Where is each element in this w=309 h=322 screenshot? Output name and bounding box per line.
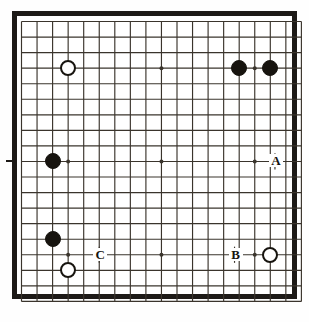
board-label-a: A xyxy=(269,154,283,167)
star-point xyxy=(253,159,257,163)
star-point xyxy=(159,66,163,70)
white-stone[interactable] xyxy=(262,247,278,263)
board-label-b: B xyxy=(229,248,243,261)
star-point xyxy=(253,253,257,257)
black-stone[interactable] xyxy=(45,153,61,169)
board-label-c: C xyxy=(93,248,107,261)
star-point xyxy=(159,253,163,257)
go-board-figure: ABC xyxy=(0,0,309,322)
star-point xyxy=(66,253,70,257)
star-point xyxy=(66,159,70,163)
edge-tick-mark xyxy=(6,160,13,162)
star-point xyxy=(159,159,163,163)
black-stone[interactable] xyxy=(45,231,61,247)
star-point xyxy=(253,66,257,70)
